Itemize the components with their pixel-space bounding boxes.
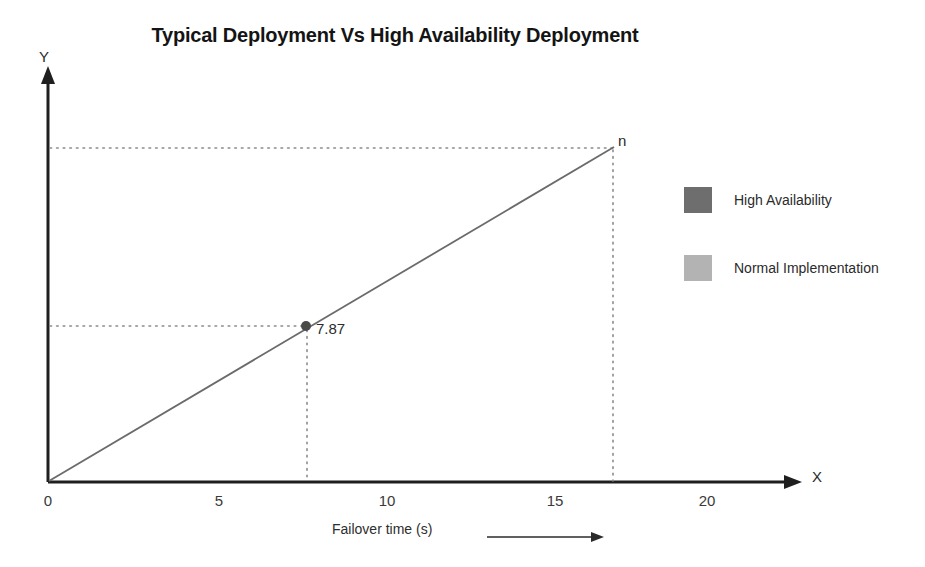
endpoint-label: n: [618, 132, 626, 149]
x-tick-label-5: 5: [215, 492, 223, 509]
direction-arrow: [487, 532, 604, 542]
data-point-value-label: 7.87: [316, 320, 345, 337]
series-high-availability-line: [49, 147, 614, 481]
data-series-line: [49, 147, 614, 481]
legend-swatch-icon: [684, 187, 712, 213]
legend-item-high-availability[interactable]: High Availability: [684, 186, 914, 214]
x-tick-label-0: 0: [44, 492, 52, 509]
direction-arrow-head: [591, 532, 604, 542]
x-tick-label-10: 10: [379, 492, 396, 509]
x-tick-label-20: 20: [699, 492, 716, 509]
x-axis-arrowhead: [784, 475, 802, 489]
chart-page: Typical Deployment Vs High Availability …: [0, 0, 925, 567]
x-tick-label-15: 15: [547, 492, 564, 509]
legend-item-label: Normal Implementation: [734, 260, 879, 276]
x-axis: [48, 475, 802, 489]
y-axis-arrowhead: [41, 66, 55, 84]
legend-item-normal-implementation[interactable]: Normal Implementation: [684, 254, 914, 282]
y-axis-letter: Y: [39, 48, 49, 65]
data-point-marker[interactable]: [301, 321, 311, 331]
legend: High Availability Normal Implementation: [684, 186, 914, 322]
y-axis: [41, 66, 55, 482]
legend-item-label: High Availability: [734, 192, 832, 208]
x-axis-title: Failover time (s): [332, 521, 432, 537]
legend-swatch-icon: [684, 255, 712, 281]
x-axis-letter: X: [812, 468, 822, 485]
data-point-7-87[interactable]: [301, 321, 311, 331]
